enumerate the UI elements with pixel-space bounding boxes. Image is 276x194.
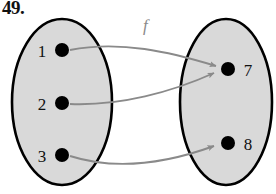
- codomain-point-8: [221, 136, 235, 150]
- domain-label-1: 1: [38, 42, 47, 61]
- domain-label-2: 2: [38, 95, 47, 114]
- function-label: f: [143, 16, 150, 35]
- codomain-point-7: [221, 62, 235, 76]
- domain-point-1: [55, 43, 69, 57]
- codomain-label-7: 7: [244, 61, 253, 80]
- codomain-ellipse: [180, 19, 272, 185]
- domain-point-2: [55, 96, 69, 110]
- domain-label-3: 3: [38, 147, 47, 166]
- codomain-label-8: 8: [244, 135, 253, 154]
- domain-point-3: [55, 148, 69, 162]
- figure-page: 49. f 1 2 3 7 8: [0, 0, 276, 194]
- mapping-diagram: f 1 2 3 7 8: [0, 0, 276, 194]
